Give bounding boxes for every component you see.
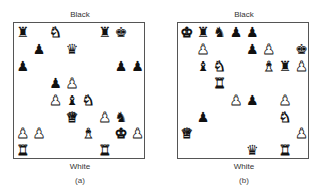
white-rook-icon: ♜ [211,74,228,91]
white-knight-icon: ♞ [47,24,64,41]
black-pawn-icon: ♟ [113,57,130,74]
white-pawn-icon: ♟ [31,125,48,142]
white-pawn-icon: ♟ [64,74,81,91]
black-rook-icon: ♜ [97,24,114,41]
white-king-icon: ♚ [113,125,130,142]
white-side-label: White [177,162,311,171]
black-pawn-icon: ♟ [129,57,146,74]
white-rook-icon: ♜ [15,142,32,159]
black-knight-icon: ♞ [113,108,130,125]
black-side-label: Black [13,10,147,19]
black-side-label: Black [177,10,311,19]
white-pawn-icon: ♟ [129,125,146,142]
black-pawn-icon: ♟ [15,57,32,74]
black-queen-icon: ♛ [64,40,81,57]
black-pawn-icon: ♟ [195,108,212,125]
black-rook-icon: ♜ [277,57,294,74]
diagram-caption: (a) [13,176,147,185]
white-pawn-icon: ♟ [195,40,212,57]
white-pawn-icon: ♟ [15,125,32,142]
black-pawn-icon: ♟ [244,24,261,41]
white-pawn-icon: ♟ [277,91,294,108]
black-rook-icon: ♜ [15,24,32,41]
black-queen-icon: ♛ [244,142,261,159]
white-queen-icon: ♛ [179,125,196,142]
black-pawn-icon: ♟ [244,40,261,57]
black-knight-icon: ♞ [211,24,228,41]
diagram-b: Black ♚♜♞♟♟♟♟♟♚♝♞♝♜♟♜♟♟♟♟♞♛♟♛♜ White (b) [164,0,324,196]
black-rook-icon: ♜ [195,24,212,41]
white-knight-icon: ♞ [80,91,97,108]
black-pawn-icon: ♟ [228,24,245,41]
white-knight-icon: ♞ [277,108,294,125]
white-bishop-icon: ♝ [80,125,97,142]
chess-board-a: ♜♞♜♚♟♛♟♟♟♟♟♟♝♞♛♟♞♟♟♝♚♟♜♜ [13,22,145,159]
white-pawn-icon: ♟ [261,40,278,57]
diagram-caption: (b) [177,176,311,185]
white-pawn-icon: ♟ [293,57,310,74]
white-knight-icon: ♞ [211,57,228,74]
black-pawn-icon: ♟ [47,74,64,91]
white-bishop-icon: ♝ [261,57,278,74]
black-pawn-icon: ♟ [244,91,261,108]
white-pawn-icon: ♟ [228,91,245,108]
black-bishop-icon: ♝ [195,57,212,74]
black-bishop-icon: ♝ [64,91,81,108]
white-rook-icon: ♜ [277,142,294,159]
white-pawn-icon: ♟ [97,108,114,125]
black-king-icon: ♚ [113,24,130,41]
diagram-a: Black ♜♞♜♚♟♛♟♟♟♟♟♟♝♞♛♟♞♟♟♝♚♟♜♜ White (a) [0,0,160,196]
white-pawn-icon: ♟ [293,125,310,142]
black-king-icon: ♚ [293,40,310,57]
white-queen-icon: ♛ [64,108,81,125]
white-side-label: White [13,162,147,171]
chess-board-b: ♚♜♞♟♟♟♟♟♚♝♞♝♜♟♜♟♟♟♟♞♛♟♛♜ [177,22,309,159]
black-pawn-icon: ♟ [31,40,48,57]
white-pawn-icon: ♟ [47,91,64,108]
white-rook-icon: ♜ [97,142,114,159]
white-king-icon: ♚ [179,24,196,41]
